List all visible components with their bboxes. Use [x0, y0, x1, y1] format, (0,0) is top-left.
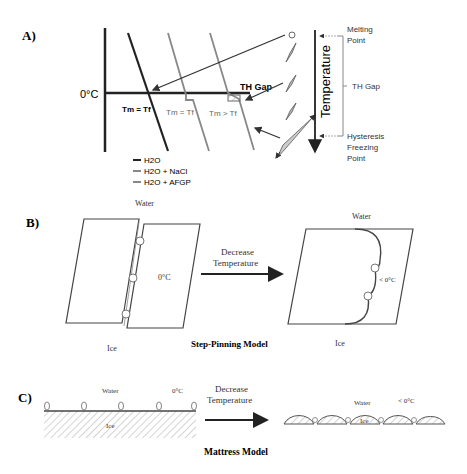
legend: H2O H2O + NaCl H2O + AFGP — [133, 156, 191, 187]
hysteresis-label-2: Freezing — [347, 143, 378, 152]
below-zero-c: < 0°C — [398, 397, 415, 405]
eq-nacl: Tm = Tf — [166, 108, 194, 117]
melting-label-2: Point — [347, 36, 366, 45]
water-label-c-left: Water — [102, 387, 119, 395]
step-pinning-title: Step-Pinning Model — [191, 339, 268, 349]
ice-label-right: Ice — [335, 339, 345, 348]
legend-nacl: H2O + NaCl — [144, 167, 188, 176]
temperature-label-b: Temperature — [213, 258, 258, 268]
panel-b: B) Water 0°C Ice Decrease Temperature Wa… — [26, 199, 413, 353]
temperature-label-c: Temperature — [207, 395, 252, 405]
crystal-circle-icon — [289, 32, 295, 38]
decrease-label-b: Decrease — [221, 247, 254, 257]
panel-b-label: B) — [26, 215, 39, 230]
water-label-left: Water — [135, 199, 154, 208]
crystal-icon — [286, 43, 296, 62]
legend-h2o: H2O — [144, 156, 160, 165]
decrease-label-c: Decrease — [215, 384, 248, 394]
eq-h2o: Tm = Tf — [122, 105, 151, 114]
ice-block-left — [66, 219, 139, 323]
legend-afgp: H2O + AFGP — [144, 178, 191, 187]
hysteresis-label-3: Point — [347, 154, 366, 163]
ice-label-c-left: Ice — [106, 422, 115, 430]
ice-label-c-right: Ice — [360, 417, 369, 425]
th-gap-bracket — [337, 36, 343, 136]
temperature-label: Temperature — [318, 45, 333, 118]
hysteresis-label-1: Hysteresis — [347, 132, 384, 141]
below-zero-b: < 0°C — [379, 276, 396, 284]
crystal-icon — [286, 75, 296, 92]
th-gap-bracket-label: TH Gap — [352, 82, 381, 91]
panel-c: C) Water 0°C Ice Decrease Temperature Wa… — [18, 384, 445, 457]
crystal-burst-icon — [277, 118, 312, 158]
crystal-icon — [286, 103, 296, 120]
mattress-title: Mattress Model — [204, 447, 268, 457]
panel-c-label: C) — [18, 390, 32, 405]
panel-a: A) 0°C Tm = Tf Tm = Tf Tm > Tf TH Gap T — [22, 25, 384, 187]
th-gap-box — [228, 95, 240, 101]
ice-label-left: Ice — [107, 344, 117, 353]
arrow-freezing — [255, 128, 280, 138]
melting-label-1: Melting — [347, 25, 373, 34]
water-label-right: Water — [352, 212, 371, 221]
zero-label-c: 0°C — [172, 387, 183, 395]
panel-a-label: A) — [22, 28, 36, 43]
water-label-c-right: Water — [354, 399, 371, 407]
eq-afgp: Tm > Tf — [209, 109, 237, 118]
zero-label-b: 0°C — [158, 273, 171, 282]
ice-slab — [44, 411, 196, 438]
zero-celsius-label: 0°C — [80, 88, 99, 100]
figure: A) 0°C Tm = Tf Tm = Tf Tm > Tf TH Gap T — [0, 0, 467, 474]
